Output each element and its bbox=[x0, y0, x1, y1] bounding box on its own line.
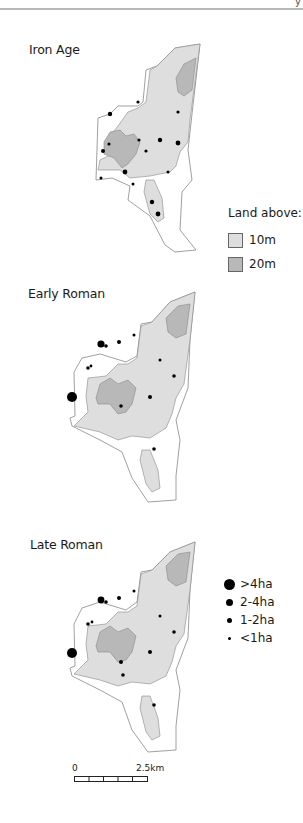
legend-site-size: >4ha 2-4ha 1-2ha <1ha bbox=[218, 575, 275, 647]
legend-label-10m: 10m bbox=[249, 233, 276, 247]
legend-elevation-title: Land above: bbox=[228, 206, 302, 228]
scale-end-label: 2.5km bbox=[136, 763, 164, 773]
site-small-icon bbox=[227, 618, 232, 623]
legend-item-10m: 10m bbox=[228, 228, 302, 252]
legend-label-under-1ha: <1ha bbox=[240, 631, 273, 645]
scale-bar-graphic bbox=[74, 776, 149, 784]
legend-elevation: Land above: 10m 20m bbox=[228, 206, 302, 276]
map-early-roman bbox=[0, 280, 303, 530]
page-number-fragment: y bbox=[295, 0, 301, 7]
map-late-roman bbox=[0, 530, 303, 770]
scale-start-label: 0 bbox=[72, 763, 78, 773]
legend-label-2-4ha: 2-4ha bbox=[240, 595, 275, 609]
legend-label-20m: 20m bbox=[249, 257, 276, 271]
swatch-10m bbox=[228, 233, 243, 248]
legend-item-20m: 20m bbox=[228, 252, 302, 276]
legend-item-2-4ha: 2-4ha bbox=[218, 593, 275, 611]
legend-item-1-2ha: 1-2ha bbox=[218, 611, 275, 629]
swatch-20m bbox=[228, 257, 243, 272]
legend-item-over-4ha: >4ha bbox=[218, 575, 275, 593]
legend-label-1-2ha: 1-2ha bbox=[240, 613, 275, 627]
header-rule bbox=[0, 8, 303, 10]
site-tiny-icon bbox=[228, 637, 231, 640]
site-medium-icon bbox=[226, 599, 233, 606]
site-large-icon bbox=[224, 579, 235, 590]
legend-item-under-1ha: <1ha bbox=[218, 629, 275, 647]
legend-label-over-4ha: >4ha bbox=[240, 577, 273, 591]
